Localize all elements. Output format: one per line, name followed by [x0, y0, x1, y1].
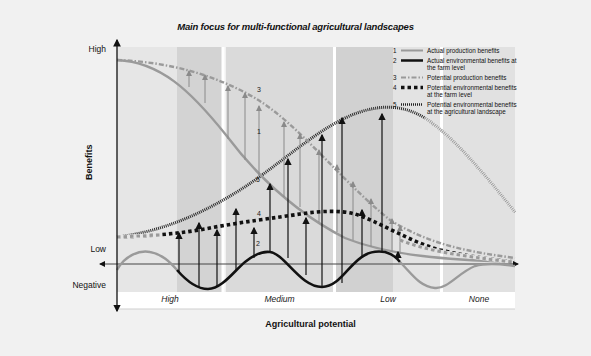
legend-label: Actual production benefits — [427, 47, 523, 54]
legend-number: 2 — [393, 57, 401, 64]
category-none: None — [443, 294, 515, 304]
legend-label: Potential production benefits — [427, 74, 523, 81]
curve-label-4: 4 — [257, 210, 261, 217]
curve-label-1: 1 — [257, 128, 261, 135]
category-high: High — [117, 294, 223, 304]
legend-item-5: 5 Potential environmental benefits at th… — [393, 101, 523, 115]
y-tick-low: Low — [46, 244, 106, 254]
square-dotted-black-line-icon — [401, 84, 423, 91]
solid-black-line-icon — [401, 57, 423, 64]
category-medium: Medium — [226, 294, 333, 304]
y-tick-negative: Negative — [46, 280, 106, 290]
y-axis-title: Benefits — [84, 144, 94, 180]
solid-grey-line-icon — [401, 47, 423, 54]
diagram: Main focus for multi-functional agricult… — [0, 0, 591, 356]
legend-number: 3 — [393, 74, 401, 81]
legend-label: Potential environmental benefits at the … — [427, 84, 523, 98]
legend: 1 Actual production benefits 2 Actual en… — [393, 47, 523, 118]
curve-label-5: 5 — [256, 176, 260, 183]
legend-number: 4 — [393, 84, 401, 91]
legend-item-2: 2 Actual environmental benefits at the f… — [393, 57, 523, 71]
x-axis-title: Agricultural potential — [0, 319, 591, 329]
legend-item-3: 3 Potential production benefits — [393, 74, 523, 81]
y-tick-high: High — [46, 44, 106, 54]
fine-dotted-black-line-icon — [401, 101, 423, 108]
curve-label-2: 2 — [256, 240, 260, 247]
curve-label-3: 3 — [257, 86, 261, 93]
legend-number: 1 — [393, 47, 401, 54]
legend-label: Potential environmental benefits at the … — [427, 101, 523, 115]
legend-item-1: 1 Actual production benefits — [393, 47, 523, 54]
legend-label: Actual environmental benefits at the far… — [427, 57, 523, 71]
dash-dot-grey-line-icon — [401, 74, 423, 81]
legend-number: 5 — [393, 101, 401, 108]
legend-item-4: 4 Potential environmental benefits at th… — [393, 84, 523, 98]
category-low: Low — [336, 294, 440, 304]
